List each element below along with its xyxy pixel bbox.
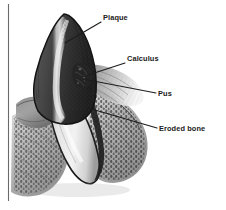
illustration-canvas: Plaque Calculus Pus Eroded bone xyxy=(0,0,226,210)
callout-label-eroded-bone: Eroded bone xyxy=(159,124,205,133)
dental-illustration-figure: Plaque Calculus Pus Eroded bone xyxy=(0,0,226,210)
ground-shadow xyxy=(26,183,130,197)
callout-label-pus: Pus xyxy=(158,89,172,98)
callout-label-plaque: Plaque xyxy=(103,13,128,22)
callout-label-calculus: Calculus xyxy=(127,54,159,63)
tooth-illustration-artwork xyxy=(10,14,154,202)
